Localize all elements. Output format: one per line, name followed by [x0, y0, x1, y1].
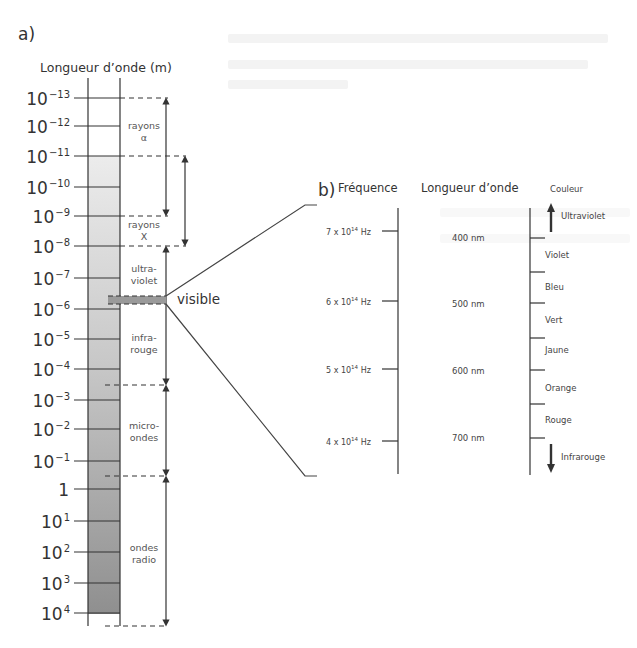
color-label-yellow: Jaune — [545, 345, 569, 355]
frequency-label: 5 x 1014 Hz — [326, 364, 371, 375]
tick-label: 10−5 — [14, 331, 70, 349]
tick-label: 10−3 — [14, 392, 70, 410]
color-axis — [530, 208, 545, 475]
band-label-xray: rayonsX — [119, 219, 169, 243]
band-label-infrared: infra-rouge — [119, 332, 169, 356]
color-label-blue: Bleu — [545, 282, 564, 292]
tick-label: 10−13 — [14, 90, 70, 108]
tick-label: 10−8 — [14, 238, 70, 256]
tick-label: 10−2 — [14, 421, 70, 439]
band-label-gamma: rayonsα — [119, 120, 169, 144]
tick-label: 101 — [14, 513, 70, 531]
tick-label: 10−1 — [14, 453, 70, 471]
tick-label: 10−4 — [14, 361, 70, 379]
frequency-label: 4 x 1014 Hz — [326, 436, 371, 447]
wavelength-label: 400 nm — [452, 233, 485, 243]
panel-b-label: b) — [318, 180, 335, 200]
tick-label: 1 — [14, 481, 70, 499]
frequency-axis — [382, 208, 398, 474]
color-header: Couleur — [550, 184, 583, 194]
ir-arrow-icon — [547, 444, 555, 473]
panel-a-label: a) — [18, 24, 35, 44]
tick-label: 104 — [14, 605, 70, 623]
wavelength-header: Longueur d’onde — [421, 181, 519, 195]
color-label-red: Rouge — [545, 415, 572, 425]
spectrum-diagram-graphics — [0, 0, 637, 648]
wavelength-column — [88, 78, 120, 626]
zoom-connector — [166, 205, 317, 476]
color-label-infrared: Infrarouge — [561, 452, 605, 462]
color-label-ultraviolet: Ultraviolet — [561, 211, 605, 221]
color-label-orange: Orange — [545, 383, 576, 393]
visible-label: visible — [177, 291, 220, 307]
tick-label: 10−7 — [14, 270, 70, 288]
color-label-green: Vert — [545, 315, 562, 325]
frequency-label: 6 x 1014 Hz — [326, 296, 371, 307]
tick-label: 10−11 — [14, 148, 70, 166]
tick-label: 10−12 — [14, 118, 70, 136]
wavelength-axis-title: Longueur d’onde (m) — [40, 60, 172, 75]
tick-label: 10−6 — [14, 301, 70, 319]
frequency-header: Fréquence — [338, 181, 398, 195]
tick-label: 103 — [14, 575, 70, 593]
wavelength-label: 700 nm — [452, 433, 485, 443]
wavelength-label: 600 nm — [452, 366, 485, 376]
band-label-microwave: micro-ondes — [119, 420, 169, 444]
uv-arrow-icon — [547, 203, 555, 232]
visible-band — [108, 296, 166, 304]
wavelength-label: 500 nm — [452, 299, 485, 309]
tick-label: 10−9 — [14, 208, 70, 226]
band-label-radio: ondesradio — [119, 542, 169, 566]
band-label-ultraviolet: ultra-violet — [119, 263, 169, 287]
color-label-violet: Violet — [545, 250, 569, 260]
tick-label: 102 — [14, 544, 70, 562]
frequency-label: 7 x 1014 Hz — [326, 226, 371, 237]
tick-label: 10−10 — [14, 179, 70, 197]
